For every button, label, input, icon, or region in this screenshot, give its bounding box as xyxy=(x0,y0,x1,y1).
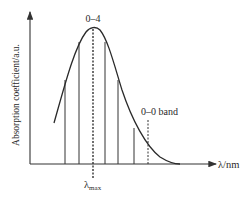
absorption-envelope-curve xyxy=(54,28,180,164)
y-axis-label: Absorption coefficient/a.u. xyxy=(11,44,21,146)
peak-label: 0–4 xyxy=(86,13,101,24)
absorption-spectrum-diagram: 0–4 0–0 band λ/nm Absorption coefficient… xyxy=(0,0,247,200)
vibronic-lines xyxy=(65,27,148,178)
lambda-subscript: max xyxy=(89,184,102,192)
lambda-max-label: λmax xyxy=(84,179,102,192)
band-label: 0–0 band xyxy=(141,106,178,117)
x-axis-label: λ/nm xyxy=(218,159,239,170)
